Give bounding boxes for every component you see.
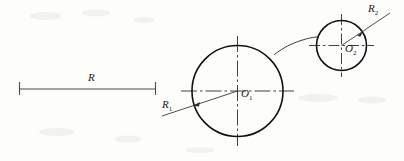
circle-large-group: R1 O1 <box>161 36 294 146</box>
circle-small-group: R2 O2 <box>309 2 390 77</box>
paper-noise-blot <box>358 97 386 104</box>
paper-noise-group <box>30 10 386 154</box>
leader-arrowhead-r2 <box>357 31 363 36</box>
dimension-label-r: R <box>87 71 95 83</box>
center-label-o1: O1 <box>241 87 253 102</box>
radius-label-r2: R2 <box>367 2 379 17</box>
paper-noise-blot <box>115 136 141 143</box>
dimension-line-group: R <box>19 71 156 95</box>
paper-noise-blot <box>39 128 75 136</box>
technical-drawing-canvas: R R1 O1 <box>0 0 404 161</box>
paper-noise-blot <box>30 12 62 20</box>
paper-noise-blot <box>298 94 338 102</box>
paper-noise-blot <box>82 10 110 17</box>
paper-noise-blot <box>133 17 155 23</box>
leader-line-r1 <box>162 91 238 116</box>
radius-label-r1: R1 <box>161 98 173 113</box>
paper-noise-blot <box>185 147 215 153</box>
center-label-o2: O2 <box>345 42 357 57</box>
